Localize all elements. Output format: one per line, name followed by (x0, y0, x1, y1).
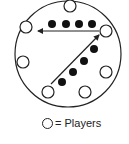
field-circle (15, 1, 121, 107)
ball-icon (75, 20, 83, 28)
ball-icon (80, 57, 88, 65)
legend: = Players (42, 116, 101, 130)
player-icon (64, 0, 76, 12)
player-icon (20, 21, 32, 33)
player-icon (17, 56, 29, 68)
ball-icon (69, 68, 77, 76)
ball-icon (58, 78, 66, 86)
player-circle-icon (42, 118, 53, 129)
ball-icon (48, 20, 56, 28)
balls (48, 20, 98, 86)
ball-icon (88, 20, 96, 28)
player-icon (100, 66, 112, 78)
passing-drill-diagram (0, 0, 129, 112)
legend-label: = Players (55, 117, 101, 129)
pass-arrows (38, 31, 99, 84)
ball-icon (62, 20, 70, 28)
ball-icon (90, 45, 98, 53)
field-boundary (15, 1, 121, 107)
player-icon (42, 86, 54, 98)
player-icon (100, 25, 112, 37)
player-icon (79, 86, 91, 98)
pass-arrow (51, 35, 99, 84)
